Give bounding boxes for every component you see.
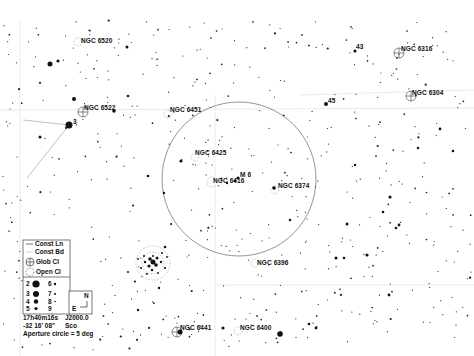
legend-mag-6: 6 <box>48 280 52 288</box>
legend-const-bd: Const Bd <box>35 248 64 256</box>
label-ngc-6304[interactable]: NGC 6304 <box>412 89 444 97</box>
info-aperture: Aperture circle = 5 deg <box>23 330 93 338</box>
constellation-lines <box>23 120 69 178</box>
info-constellation: Sco <box>65 322 77 330</box>
info-epoch: J2000.0 <box>65 314 89 322</box>
label-ngc-6396[interactable]: NGC 6396 <box>257 259 289 267</box>
label-ngc-6522[interactable]: NGC 6522 <box>84 104 116 112</box>
compass: N E <box>69 291 92 314</box>
label-star-43: 43 <box>356 43 363 51</box>
label-ngc-6374[interactable]: NGC 6374 <box>278 182 310 190</box>
label-m6[interactable]: M 6 <box>240 171 251 179</box>
legend-mag-2: 2 <box>26 280 30 288</box>
legend-open-cl: Open Cl <box>36 268 61 276</box>
label-ngc-6316[interactable]: NGC 6316 <box>401 45 433 53</box>
legend-mag-5: 5 <box>26 305 30 313</box>
legend-mag-9: 9 <box>48 305 52 313</box>
legend: Const Ln Const Bd Glob Cl Open Cl 2 3 4 … <box>23 240 70 314</box>
label-ngc-6425[interactable]: NGC 6425 <box>195 149 227 157</box>
open-cluster-markers <box>74 38 279 335</box>
info-dec: -32 16' 08" <box>23 322 55 330</box>
compass-north: N <box>84 292 89 300</box>
label-star-45: 45 <box>328 97 335 105</box>
legend-const-ln: Const Ln <box>35 240 63 248</box>
globular-cluster-markers <box>78 48 416 337</box>
info-ra: 17h40m16s <box>23 314 58 322</box>
legend-glob-cl: Glob Cl <box>36 258 59 266</box>
label-star-3: 3 <box>73 118 77 126</box>
compass-east: E <box>72 305 76 313</box>
label-ngc-6400[interactable]: NGC 6400 <box>240 324 272 332</box>
label-ngc-6451[interactable]: NGC 6451 <box>170 106 202 114</box>
label-ngc-6520[interactable]: NGC 6520 <box>81 37 113 45</box>
label-ngc-6441[interactable]: NGC 6441 <box>180 324 212 332</box>
stars <box>39 46 455 337</box>
